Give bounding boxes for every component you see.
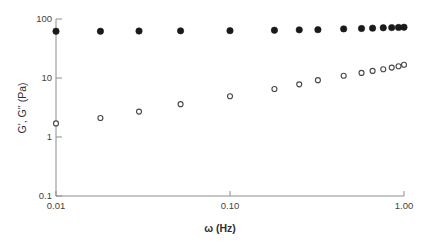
data-point [97, 28, 103, 34]
data-point [296, 27, 302, 33]
data-point [271, 27, 277, 33]
scatter-plot: 0.1110100 0.010.101.00 G', G'' (Pa) ω (H… [0, 0, 429, 248]
x-tick-label-1.00: 1.00 [395, 200, 414, 211]
data-point [272, 87, 277, 92]
y-axis-tick-group [56, 19, 62, 196]
data-point [369, 25, 375, 31]
data-point [389, 65, 394, 70]
data-point [381, 67, 386, 72]
series-g-prime-points [53, 24, 407, 34]
data-point [315, 78, 320, 83]
data-point [402, 62, 407, 67]
y-axis-title: G', G'' (Pa) [16, 83, 28, 134]
data-point [359, 70, 364, 75]
data-point [53, 28, 59, 34]
y-tick-label-10: 10 [41, 72, 52, 83]
y-tick-label-1: 1 [47, 131, 52, 142]
data-point [396, 64, 401, 69]
data-point [380, 25, 386, 31]
series-g-double-prime-points [54, 62, 407, 126]
data-point [177, 28, 183, 34]
data-point [315, 26, 321, 32]
data-point [137, 109, 142, 114]
data-point [54, 121, 59, 126]
data-point [227, 27, 233, 33]
y-tick-label-100: 100 [36, 13, 52, 24]
data-point [178, 102, 183, 107]
data-point [340, 26, 346, 32]
chart-container: 0.1110100 0.010.101.00 G', G'' (Pa) ω (H… [0, 0, 429, 248]
data-point [370, 68, 375, 73]
y-axis-tick-labels: 0.1110100 [36, 13, 52, 201]
data-point [136, 28, 142, 34]
x-axis-tick-labels: 0.010.101.00 [47, 200, 414, 211]
data-point [98, 115, 103, 120]
x-tick-label-0.01: 0.01 [47, 200, 66, 211]
data-point [228, 94, 233, 99]
x-tick-label-0.10: 0.10 [221, 200, 240, 211]
x-axis-tick-group [56, 191, 404, 196]
data-point [389, 24, 395, 30]
data-point [358, 25, 364, 31]
data-point [401, 24, 407, 30]
x-axis-title: ω (Hz) [204, 222, 236, 234]
data-point [341, 73, 346, 78]
data-point [297, 82, 302, 87]
